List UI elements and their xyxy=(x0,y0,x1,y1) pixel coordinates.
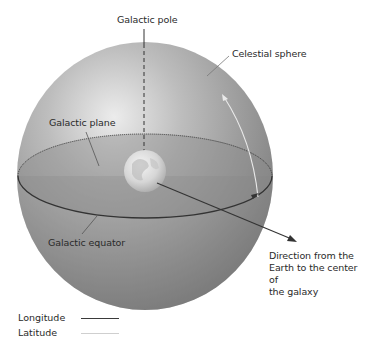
direction-label: Direction from the Earth to the center o… xyxy=(269,250,366,298)
direction-line-3: the galaxy xyxy=(269,286,366,298)
legend-longitude: Longitude xyxy=(18,312,118,324)
galactic-plane-label: Galactic plane xyxy=(49,117,115,129)
legend-longitude-label: Longitude xyxy=(18,312,65,324)
galactic-equator-label: Galactic equator xyxy=(48,237,125,249)
legend-latitude: Latitude xyxy=(18,327,118,339)
longitude-swatch xyxy=(81,318,119,319)
direction-line-2: Earth to the center of xyxy=(269,262,366,286)
celestial-diagram xyxy=(0,0,366,351)
celestial-sphere-label: Celestial sphere xyxy=(232,48,307,60)
legend-latitude-label: Latitude xyxy=(18,327,57,339)
earth-icon xyxy=(124,150,166,192)
galactic-pole-label: Galactic pole xyxy=(117,14,178,26)
direction-line-1: Direction from the xyxy=(269,250,366,262)
latitude-swatch xyxy=(81,333,119,334)
